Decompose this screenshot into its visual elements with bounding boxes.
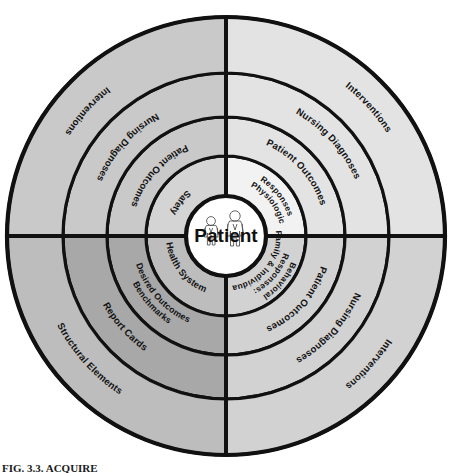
center-hub: Patient bbox=[186, 196, 266, 276]
figure-container: SafetyPatient OutcomesNursing DiagnosesI… bbox=[0, 0, 460, 473]
concentric-nursing-framework-diagram: SafetyPatient OutcomesNursing DiagnosesI… bbox=[0, 0, 460, 473]
center-label: Patient bbox=[194, 225, 258, 246]
figure-caption: FIG. 3.3. ACQUIRE bbox=[2, 462, 98, 473]
